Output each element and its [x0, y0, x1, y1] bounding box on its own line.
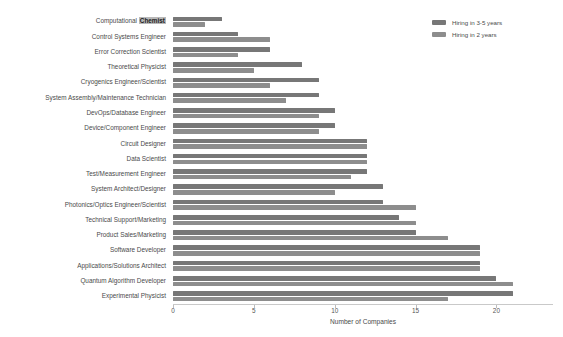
category-axis-labels: Computational ChemistControl Systems Eng… [0, 14, 170, 304]
category-label: Cryogenics Engineer/Scientist [81, 79, 166, 85]
bar-hiring-2-years [173, 282, 513, 287]
category-label: DevOps/Database Engineer [86, 110, 166, 116]
bar-hiring-3-5-years [173, 276, 496, 281]
bar-hiring-3-5-years [173, 62, 302, 67]
bar-hiring-2-years [173, 221, 416, 226]
bar-hiring-3-5-years [173, 169, 367, 174]
bar-chart-figure: Hiring in 3-5 yearsHiring in 2 years Com… [0, 0, 563, 337]
category-label: Quantum Algorithm Developer [80, 278, 166, 284]
bar-hiring-2-years [173, 160, 367, 165]
category-label: Applications/Solutions Architect [77, 263, 166, 269]
bar-hiring-3-5-years [173, 215, 399, 220]
x-axis-tick-label: 5 [252, 308, 256, 314]
category-label: Computational Chemist [96, 18, 166, 24]
category-label: Product Sales/Marketing [96, 232, 166, 238]
x-axis-tick-label: 20 [493, 308, 500, 314]
bar-hiring-3-5-years [173, 123, 335, 128]
category-label: Control Systems Engineer [92, 34, 166, 40]
bar-hiring-2-years [173, 297, 448, 302]
bar-hiring-2-years [173, 190, 335, 195]
bar-hiring-3-5-years [173, 261, 480, 266]
plot-area [173, 14, 553, 304]
bar-hiring-3-5-years [173, 93, 319, 98]
bar-hiring-3-5-years [173, 200, 383, 205]
bar-hiring-2-years [173, 22, 205, 27]
bar-hiring-3-5-years [173, 230, 416, 235]
bar-hiring-3-5-years [173, 139, 367, 144]
bar-hiring-2-years [173, 129, 319, 134]
bar-hiring-2-years [173, 236, 448, 241]
bar-hiring-2-years [173, 114, 319, 119]
bar-hiring-3-5-years [173, 245, 480, 250]
category-label: System Assembly/Maintenance Technician [45, 95, 166, 101]
category-label: Photonics/Optics Engineer/Scientist [65, 202, 166, 208]
bar-hiring-2-years [173, 266, 480, 271]
bar-hiring-3-5-years [173, 47, 270, 52]
category-label: Technical Support/Marketing [85, 217, 166, 223]
bar-hiring-3-5-years [173, 291, 513, 296]
bar-hiring-2-years [173, 37, 270, 42]
bar-hiring-3-5-years [173, 17, 222, 22]
category-label: Error Correction Scientist [95, 49, 166, 55]
bar-hiring-2-years [173, 53, 238, 58]
x-axis-tick-label: 10 [331, 308, 338, 314]
category-label: Test/Measurement Engineer [86, 171, 166, 177]
bar-hiring-2-years [173, 175, 351, 180]
x-axis-tick-label: 0 [171, 308, 175, 314]
category-label: System Architect/Designer [91, 186, 166, 192]
category-label: Circuit Designer [121, 141, 166, 147]
category-label: Experimental Physicist [102, 293, 166, 299]
x-axis-title: Number of Companies [173, 318, 553, 325]
bar-hiring-2-years [173, 68, 254, 73]
bar-hiring-2-years [173, 83, 270, 88]
bar-hiring-3-5-years [173, 108, 335, 113]
category-label: Software Developer [110, 247, 166, 253]
bar-hiring-2-years [173, 251, 480, 256]
category-label: Data Scientist [127, 156, 166, 162]
bar-hiring-3-5-years [173, 32, 238, 37]
bar-hiring-3-5-years [173, 154, 367, 159]
bar-hiring-2-years [173, 98, 286, 103]
bar-hiring-3-5-years [173, 78, 319, 83]
bar-hiring-2-years [173, 205, 416, 210]
x-axis-tick-label: 15 [412, 308, 419, 314]
category-label: Theoretical Physicist [107, 64, 166, 70]
category-label: Device/Component Engineer [84, 125, 166, 131]
bar-hiring-2-years [173, 144, 367, 149]
highlighted-label-text: Chemist [139, 17, 166, 24]
bar-hiring-3-5-years [173, 184, 383, 189]
